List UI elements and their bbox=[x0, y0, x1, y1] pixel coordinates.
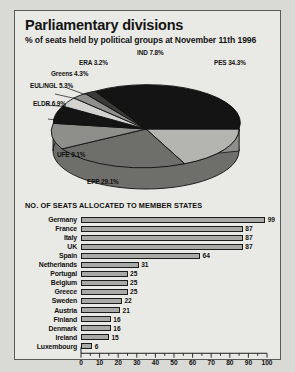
page-subtitle: % of seats held by political groups at N… bbox=[25, 35, 256, 45]
axis-tick-label: 30 bbox=[127, 359, 147, 366]
axis-tick-label: 20 bbox=[108, 359, 128, 366]
axis-tick-label: 50 bbox=[164, 359, 184, 366]
axis-tick-label: 100 bbox=[257, 359, 277, 366]
pie-label-ufe: UFE 9.1% bbox=[57, 151, 85, 158]
chart-page: Parliamentary divisions % of seats held … bbox=[0, 0, 295, 372]
axis-tick-label: 60 bbox=[183, 359, 203, 366]
pie-label-eulngl: EUL/NGL 5.3% bbox=[30, 82, 73, 89]
pie-chart: IND 7.8% PES 34.3% ERA 3.2% Greens 4.3% … bbox=[15, 47, 280, 199]
axis-tick-label: 40 bbox=[145, 359, 165, 366]
pie-label-pes: PES 34.3% bbox=[214, 59, 246, 66]
axis-tick-label: 70 bbox=[201, 359, 221, 366]
pie-label-eldr: ELDR 6.9% bbox=[33, 100, 66, 107]
bar-chart-heading: NO. OF SEATS ALLOCATED TO MEMBER STATES bbox=[25, 201, 202, 210]
axis-tick-label: 90 bbox=[238, 359, 258, 366]
pie-label-era: ERA 3.2% bbox=[79, 59, 108, 66]
pie-label-ind: IND 7.8% bbox=[137, 49, 164, 56]
chart-panel: Parliamentary divisions % of seats held … bbox=[14, 10, 281, 360]
page-title: Parliamentary divisions bbox=[25, 17, 183, 33]
pie-label-epp: EPP 29.1% bbox=[87, 178, 119, 185]
axis-tick-label: 0 bbox=[71, 359, 91, 366]
axis-tick-label: 10 bbox=[90, 359, 110, 366]
axis-tick-label: 80 bbox=[220, 359, 240, 366]
bar-chart-axis bbox=[15, 213, 280, 359]
bar-chart: Germany99France87Italy87UK87Spain64Nethe… bbox=[15, 213, 280, 359]
pie-label-greens: Greens 4.3% bbox=[51, 70, 88, 77]
